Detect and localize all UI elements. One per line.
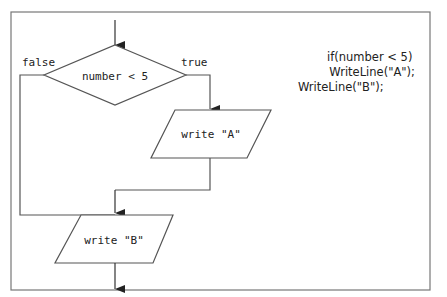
- true-label: true: [181, 56, 208, 69]
- process-a-label: write "A": [181, 128, 241, 141]
- code-line-2: WriteLine("A");: [322, 65, 415, 79]
- decision-label: number < 5: [82, 70, 148, 83]
- true-branch-line: [186, 75, 210, 109]
- process-b-label: write "B": [84, 234, 144, 247]
- code-line-3: WriteLine("B");: [298, 80, 384, 94]
- process-a-exit-line: [115, 158, 210, 190]
- flowchart-diagram: number < 5 false true write "A" write "B…: [0, 0, 447, 297]
- false-label: false: [22, 56, 55, 69]
- code-line-1: if(number < 5): [327, 50, 412, 64]
